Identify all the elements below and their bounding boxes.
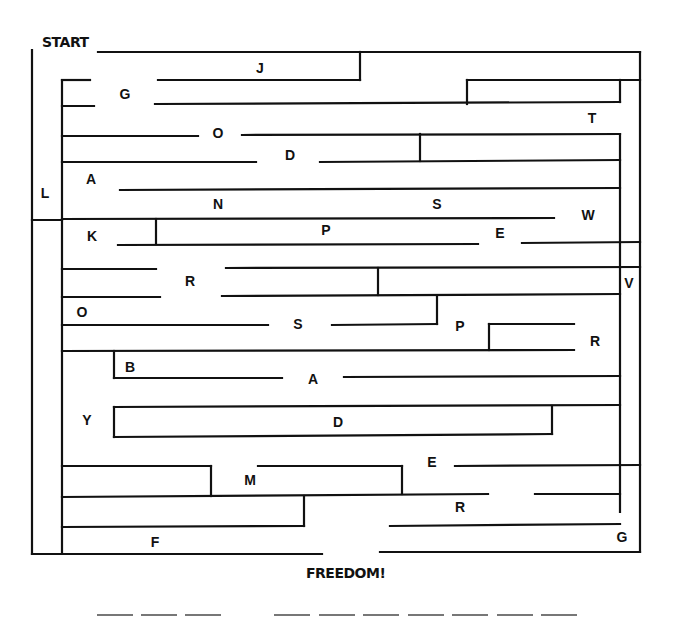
maze-letter: D (333, 415, 343, 429)
maze-letter: E (427, 455, 436, 469)
maze-letter: T (588, 111, 597, 125)
maze-letter: A (86, 172, 96, 186)
maze-letter: N (213, 197, 223, 211)
maze-letter: M (244, 473, 256, 487)
maze-letter: R (185, 274, 195, 288)
answer-blank[interactable] (141, 614, 177, 616)
answer-blank[interactable] (363, 614, 399, 616)
maze-letter: Y (82, 413, 91, 427)
answer-blank[interactable] (319, 614, 355, 616)
maze-letter: G (120, 87, 131, 101)
answer-blank[interactable] (541, 614, 577, 616)
maze-letter: O (213, 126, 224, 140)
maze-walls (0, 0, 673, 622)
answer-blank[interactable] (408, 614, 444, 616)
answer-blank[interactable] (452, 614, 488, 616)
maze-letter: S (432, 197, 441, 211)
maze-letter: J (256, 61, 264, 75)
maze-letter: S (293, 317, 302, 331)
maze-letter: R (455, 500, 465, 514)
maze-letter: A (308, 372, 318, 386)
answer-blank[interactable] (274, 614, 310, 616)
maze-letter: D (285, 148, 295, 162)
maze-letter: P (455, 319, 464, 333)
start-label: START (42, 34, 89, 50)
answer-blank[interactable] (497, 614, 533, 616)
maze-letter: L (41, 186, 50, 200)
maze-letter: E (495, 226, 504, 240)
maze-letter: O (77, 305, 88, 319)
maze-letter: F (151, 535, 160, 549)
maze-letter: R (590, 334, 600, 348)
maze-letter: G (617, 530, 628, 544)
maze-letter: B (125, 360, 135, 374)
finish-label: FREEDOM! (306, 565, 385, 581)
maze-letter: W (581, 208, 594, 222)
answer-blank[interactable] (185, 614, 221, 616)
maze-letter: V (624, 276, 633, 290)
answer-blank[interactable] (97, 614, 133, 616)
maze-letter: P (321, 223, 330, 237)
maze-letter: K (87, 229, 97, 243)
